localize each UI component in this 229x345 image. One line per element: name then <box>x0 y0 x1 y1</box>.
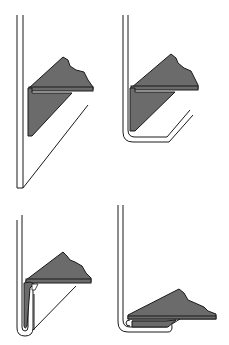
panel-step-2 <box>110 0 229 200</box>
step-4-illustration <box>110 190 229 345</box>
panel-step-3 <box>0 190 115 345</box>
step-1-illustration <box>0 0 115 200</box>
panel-step-4 <box>110 190 229 345</box>
panel-step-1 <box>0 0 115 200</box>
step-3-illustration <box>0 190 115 345</box>
step-2-illustration <box>110 0 229 200</box>
